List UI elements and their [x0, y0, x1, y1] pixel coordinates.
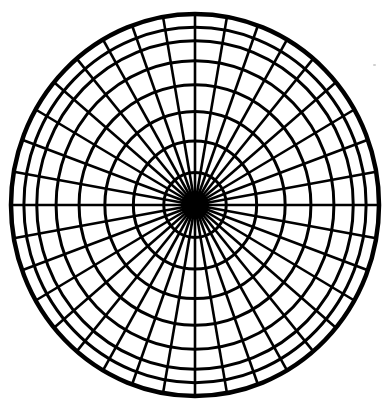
polar-grid-diagram: [0, 0, 385, 406]
center-core: [181, 191, 209, 219]
stray-speck: [373, 64, 376, 66]
